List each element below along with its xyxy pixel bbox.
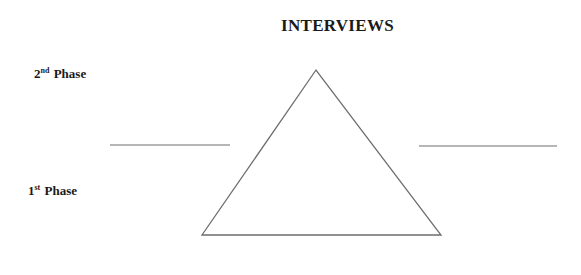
interview-triangle (202, 70, 441, 235)
diagram-canvas (0, 0, 581, 275)
